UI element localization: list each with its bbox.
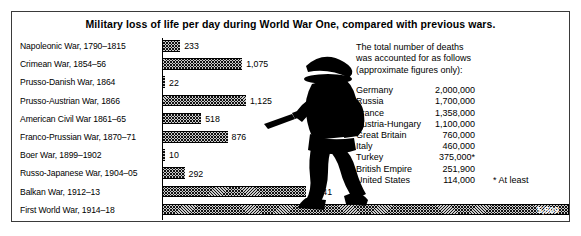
country-name: Turkey [356,152,421,163]
chart-row-label: Boer War, 1899–1902 [20,150,101,160]
summary-line-2: was accounted for as follows [356,53,561,64]
country-name: United States [356,175,421,186]
table-row: France1,358,000 [356,108,529,119]
table-row: British Empire251,900 [356,164,529,175]
page-title: Military loss of life per day during Wor… [12,18,569,30]
chart-bar [163,149,165,161]
country-name: Russia [356,96,421,107]
table-row: Russia1,700,000 [356,96,529,107]
country-deaths: 114,000 [421,175,475,186]
chart-row-label: First World War, 1914–18 [20,205,115,215]
chart-bar [163,131,228,143]
footnote-text [475,141,529,152]
footnote-text [475,152,529,163]
footnote-text: * At least [475,175,529,186]
table-row: Great Britain760,000 [356,130,529,141]
country-name: British Empire [356,164,421,175]
chart-bar-value: 876 [230,132,249,142]
chart-row-label: Crimean War, 1854–56 [20,59,106,69]
chart-bar [163,167,185,179]
country-name: Germany [356,85,421,96]
table-row: Turkey375,000* [356,152,529,163]
footnote-text [475,164,529,175]
chart-bar-value: 5,509 [535,205,561,215]
country-deaths: 2,000,000 [421,85,475,96]
country-name: Austria-Hungary [356,119,421,130]
chart-row-label: Franco-Prussian War, 1870–71 [20,132,136,142]
country-deaths: 251,900 [421,164,475,175]
chart-row-label: Napoleonic War, 1790–1815 [20,41,126,51]
country-deaths: 375,000* [421,152,475,163]
chart-row-label: Prusso-Danish War, 1864 [20,77,115,87]
chart-bar-value: 518 [203,114,222,124]
country-deaths: 1,700,000 [421,96,475,107]
summary-line-1: The total number of deaths [356,42,561,53]
chart-bar-value: 292 [187,169,206,179]
chart-row-label: Balkan War, 1912–13 [20,187,100,197]
country-name: France [356,108,421,119]
footnote-text [475,85,529,96]
table-row: Germany2,000,000 [356,85,529,96]
chart-row-label: American Civil War 1861–65 [20,114,126,124]
chart-row-label: Prusso-Austrian War, 1866 [20,96,120,106]
chart-bar [163,76,165,88]
footnote-text [475,130,529,141]
footnote-text [475,119,529,130]
chart-bar [163,40,180,52]
deaths-by-country-table: Germany2,000,000Russia1,700,000France1,3… [356,85,529,186]
chart-row-label: Russo-Japanese War, 1904–05 [20,168,137,178]
country-name: Italy [356,141,421,152]
footnote-text [475,108,529,119]
chart-bar [163,58,242,70]
chart-bar-value: 22 [167,78,181,88]
country-deaths: 1,358,000 [421,108,475,119]
chart-bar [163,113,201,125]
chart-axis-line [162,38,163,220]
country-deaths: 460,000 [421,141,475,152]
table-row: United States114,000* At least [356,175,529,186]
country-deaths: 760,000 [421,130,475,141]
country-name: Great Britain [356,130,421,141]
footnote-text [475,96,529,107]
infographic-frame: Military loss of life per day during Wor… [11,11,570,222]
table-row: Austria-Hungary1,100,000 [356,119,529,130]
deaths-summary-panel: The total number of deaths was accounted… [356,42,561,186]
country-deaths: 1,100,000 [421,119,475,130]
chart-bar [163,95,246,107]
chart-bar-value: 10 [167,150,181,160]
chart-bar-value: 233 [182,41,201,51]
table-row: Italy460,000 [356,141,529,152]
summary-line-3: (approximate figures only): [356,65,561,76]
